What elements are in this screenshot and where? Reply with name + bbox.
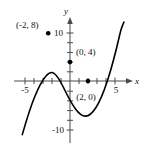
x-tick-label-5: 5 <box>114 85 119 95</box>
y-axis <box>67 17 74 143</box>
x-axis-label: x <box>134 76 139 86</box>
point-marker-local-max <box>46 31 51 36</box>
y-axis-label: y <box>63 6 68 16</box>
point-marker-root <box>86 79 91 84</box>
point-label-local-max: (-2, 8) <box>16 20 39 30</box>
x-axis <box>14 78 133 85</box>
point-label-y-intercept: (0, 4) <box>76 47 96 57</box>
point-label-root: (2, 0) <box>76 92 96 102</box>
cubic-function-graph: y x -5 5 10 -10 (-2, 8) (0, 4) (2, 0) <box>0 0 145 154</box>
graph-canvas: y x -5 5 10 -10 (-2, 8) (0, 4) (2, 0) <box>0 0 145 154</box>
x-tick-label-neg5: -5 <box>21 85 29 95</box>
y-tick-label-neg10: -10 <box>52 125 64 135</box>
cubic-curve <box>22 22 124 134</box>
y-tick-label-10: 10 <box>54 28 64 38</box>
point-marker-y-intercept <box>68 60 73 65</box>
